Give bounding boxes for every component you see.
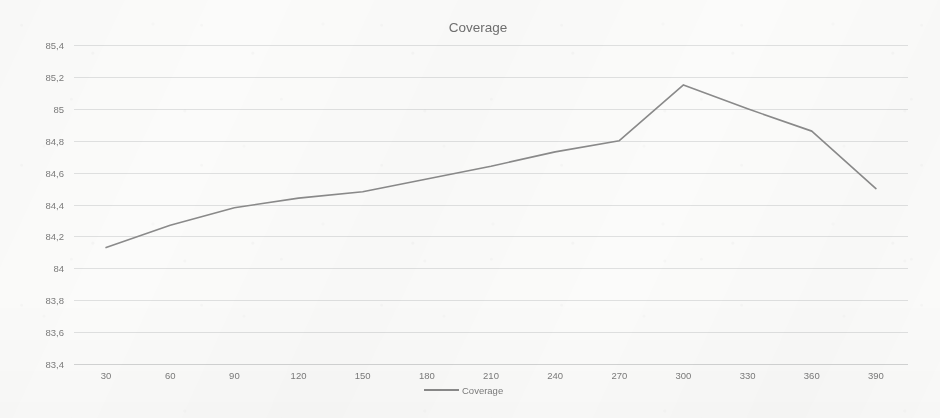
coverage-line-chart: 85,485,28584,884,684,484,28483,883,683,4… bbox=[0, 0, 940, 418]
x-tick-label: 180 bbox=[419, 370, 435, 381]
x-tick-label: 60 bbox=[165, 370, 176, 381]
y-tick-label: 84 bbox=[53, 263, 64, 274]
y-tick-label: 84,8 bbox=[46, 136, 65, 147]
y-axis-tick-labels: 85,485,28584,884,684,484,28483,883,683,4 bbox=[46, 40, 65, 370]
y-tick-label: 83,8 bbox=[46, 295, 65, 306]
y-tick-label: 85 bbox=[53, 104, 64, 115]
x-tick-label: 270 bbox=[611, 370, 627, 381]
x-tick-label: 210 bbox=[483, 370, 499, 381]
y-tick-label: 84,2 bbox=[46, 231, 65, 242]
chart-title: Coverage bbox=[449, 20, 508, 35]
x-tick-label: 150 bbox=[355, 370, 371, 381]
x-tick-label: 360 bbox=[804, 370, 820, 381]
x-tick-label: 90 bbox=[229, 370, 240, 381]
legend-label-coverage: Coverage bbox=[462, 385, 503, 396]
x-tick-label: 300 bbox=[676, 370, 692, 381]
x-tick-label: 120 bbox=[291, 370, 307, 381]
chart-legend: Coverage bbox=[424, 385, 503, 396]
chart-canvas: 85,485,28584,884,684,484,28483,883,683,4… bbox=[0, 0, 940, 418]
x-axis-tick-labels: 306090120150180210240270300330360390 bbox=[101, 370, 884, 381]
y-tick-label: 84,6 bbox=[46, 168, 65, 179]
gridlines-group bbox=[74, 46, 908, 365]
y-tick-label: 84,4 bbox=[46, 200, 65, 211]
y-tick-label: 85,4 bbox=[46, 40, 65, 51]
x-tick-label: 240 bbox=[547, 370, 563, 381]
y-tick-label: 85,2 bbox=[46, 72, 65, 83]
y-tick-label: 83,4 bbox=[46, 359, 65, 370]
x-tick-label: 330 bbox=[740, 370, 756, 381]
y-tick-label: 83,6 bbox=[46, 327, 65, 338]
x-tick-label: 30 bbox=[101, 370, 112, 381]
x-tick-label: 390 bbox=[868, 370, 884, 381]
